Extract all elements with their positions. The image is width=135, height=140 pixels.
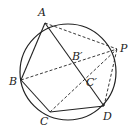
segment-BP [21,49,117,80]
label-C: C [40,115,49,128]
label-A: A [37,6,46,19]
segment-AD [45,23,104,106]
geometry-diagram: A P B C D B′ C′ [0,0,135,140]
label-B-prime: B′ [71,50,83,63]
segment-AP [45,23,117,49]
label-B: B [8,75,17,88]
label-P: P [119,42,128,55]
segment-CP [50,49,117,112]
label-D: D [102,110,112,123]
segment-DP [104,49,117,106]
circumcircle [20,24,116,120]
label-C-prime: C′ [86,76,97,89]
